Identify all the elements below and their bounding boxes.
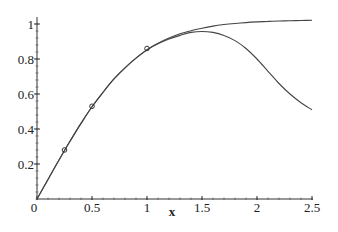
y-tick-label: 1 [28,17,35,32]
y-tick-label: 0.8 [18,52,34,67]
x-axis-label: x [169,204,176,219]
x-tick-label: 0.5 [84,200,100,215]
tick-labels: 0.20.40.60.8100.511.522.5 [18,17,320,216]
lower-curve [37,32,312,200]
y-tick-label: 0.4 [18,122,35,137]
curves [37,20,312,199]
x-tick-label: 2.5 [304,200,320,215]
chart: 0.20.40.60.8100.511.522.5 x [0,0,338,232]
x-tick-label: 2 [254,200,261,215]
ticks [34,24,312,200]
x-tick-label: 1 [144,200,151,215]
x-tick-label: 0 [31,200,38,215]
upper-curve [37,20,312,199]
y-tick-label: 0.2 [18,157,34,172]
x-tick-label: 1.5 [194,200,210,215]
y-tick-label: 0.6 [18,87,35,102]
axes [37,17,313,199]
data-point-markers [62,46,149,152]
